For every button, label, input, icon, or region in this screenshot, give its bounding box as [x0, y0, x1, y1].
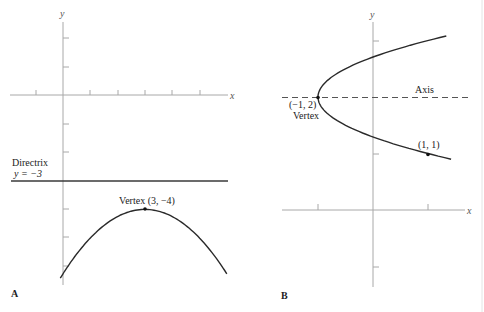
panel-b-axis-label: Axis	[415, 84, 434, 95]
panel-b-point-label: (1, 1)	[418, 139, 440, 151]
panel-a-x-ticks	[36, 90, 200, 95]
parabola-figure: x y Directrix y = −3 Vertex (3, −4) A	[0, 0, 484, 312]
panel-a-directrix-title: Directrix	[12, 157, 48, 168]
panel-b: x y Axis (−1, 2) Vertex (1, 1) B	[281, 9, 472, 301]
panel-b-label: B	[281, 290, 288, 301]
panel-a-label: A	[11, 288, 19, 299]
panel-b-vertex-word: Vertex	[293, 110, 319, 121]
panel-a: x y Directrix y = −3 Vertex (3, −4) A	[10, 8, 235, 299]
panel-b-point-1-1	[426, 153, 430, 157]
panel-a-y-ticks	[63, 38, 69, 266]
panel-a-vertex-label: Vertex (3, −4)	[119, 195, 175, 207]
panel-a-x-label: x	[229, 90, 235, 101]
panel-b-x-label: x	[466, 205, 472, 216]
panel-a-parabola	[60, 209, 227, 278]
panel-a-vertex-point	[143, 207, 147, 211]
panel-a-y-label: y	[59, 8, 65, 19]
panel-b-vertex-point	[316, 96, 320, 100]
panel-a-directrix-equation: y = −3	[13, 168, 42, 179]
panel-b-y-ticks	[373, 41, 379, 267]
panel-b-y-label: y	[369, 9, 375, 20]
